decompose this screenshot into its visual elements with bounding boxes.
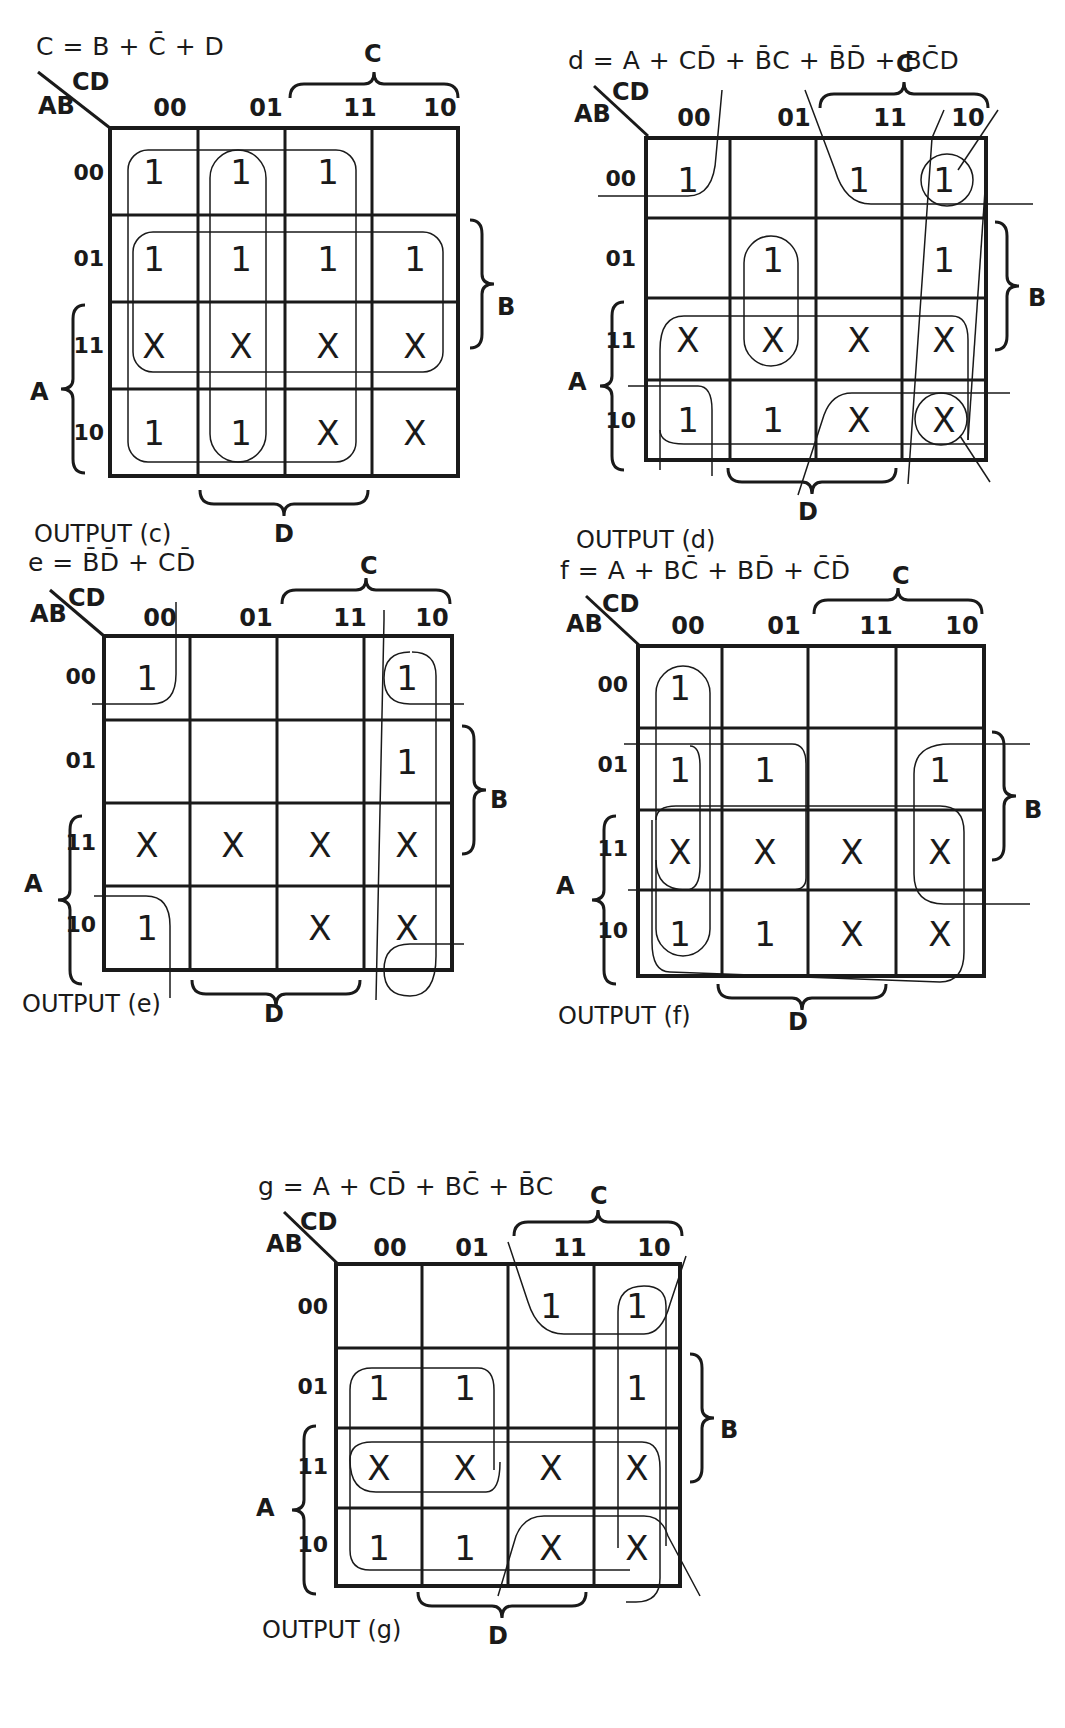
col-group-c-label: C xyxy=(892,562,910,590)
cell xyxy=(280,718,360,806)
cell: X xyxy=(900,890,980,978)
cell: 1 xyxy=(367,634,447,722)
cell: X xyxy=(904,296,984,384)
kmap-g: g = A + CD̄ + BC̄ + B̄C CD AB C B A D xyxy=(240,1160,760,1720)
cell: 1 xyxy=(114,128,194,216)
row-group-a-label: A xyxy=(24,870,43,898)
row-code: 00 xyxy=(596,166,636,191)
cell xyxy=(648,216,728,304)
cell: X xyxy=(812,808,892,896)
row-var-label: AB xyxy=(38,92,75,120)
kmap-e: e = B̄D̄ + CD̄ CD AB C B A D 00 01 11 10… xyxy=(0,590,520,1150)
row-code: 11 xyxy=(596,328,636,353)
col-group-d-label: D xyxy=(488,1622,508,1650)
cell: 1 xyxy=(733,376,813,464)
col-var-label: CD xyxy=(602,590,640,618)
cell: 1 xyxy=(648,136,728,224)
row-group-b-label: B xyxy=(720,1416,738,1444)
cell: 1 xyxy=(201,389,281,477)
row-code: 11 xyxy=(288,1454,328,1479)
cell xyxy=(193,718,273,806)
row-code: 00 xyxy=(288,1294,328,1319)
cell xyxy=(193,884,273,972)
col-group-c-label: C xyxy=(360,552,378,580)
col-code: 11 xyxy=(846,612,906,640)
cell: 1 xyxy=(648,376,728,464)
col-group-c-label: C xyxy=(896,50,914,78)
cell: X xyxy=(648,296,728,384)
col-code: 10 xyxy=(624,1234,684,1262)
row-group-b-label: B xyxy=(1024,796,1042,824)
cell: X xyxy=(597,1504,677,1592)
cell: 1 xyxy=(107,634,187,722)
cell: X xyxy=(597,1424,677,1512)
row-group-a-label: A xyxy=(256,1494,275,1522)
row-var-label: AB xyxy=(574,100,611,128)
cell: 1 xyxy=(725,726,805,814)
col-code: 10 xyxy=(932,612,992,640)
cell: X xyxy=(367,884,447,972)
row-group-b-label: B xyxy=(497,293,515,321)
cell xyxy=(733,136,813,224)
cell: 1 xyxy=(425,1344,505,1432)
row-group-a-label: A xyxy=(568,368,587,396)
col-code: 00 xyxy=(664,104,724,132)
col-var-label: CD xyxy=(300,1208,338,1236)
cell: 1 xyxy=(288,215,368,303)
row-code: 01 xyxy=(288,1374,328,1399)
cell xyxy=(425,1262,505,1350)
col-var-label: CD xyxy=(72,68,110,96)
col-code: 01 xyxy=(236,94,296,122)
cell: X xyxy=(375,302,455,390)
cell: X xyxy=(725,808,805,896)
cell: X xyxy=(280,884,360,972)
cell: X xyxy=(511,1424,591,1512)
cell: X xyxy=(819,376,899,464)
cell xyxy=(812,726,892,814)
row-code: 10 xyxy=(288,1532,328,1557)
row-code: 10 xyxy=(588,918,628,943)
cell: 1 xyxy=(640,644,720,732)
col-code: 00 xyxy=(140,94,200,122)
cell: 1 xyxy=(114,215,194,303)
cell: X xyxy=(288,389,368,477)
cell xyxy=(725,644,805,732)
cell: X xyxy=(339,1424,419,1512)
cell xyxy=(375,128,455,216)
cell: X xyxy=(733,296,813,384)
cell: X xyxy=(288,302,368,390)
cell: X xyxy=(511,1504,591,1592)
cell: X xyxy=(193,801,273,889)
cell: X xyxy=(900,808,980,896)
cell: 1 xyxy=(201,215,281,303)
kmap-f: f = A + BC̄ + BD̄ + C̄D̄ CD AB C B A D 0… xyxy=(540,590,1060,1150)
row-var-label: AB xyxy=(566,610,603,638)
cell: X xyxy=(904,376,984,464)
col-group-d-label: D xyxy=(264,1000,284,1028)
cell: X xyxy=(640,808,720,896)
cell: X xyxy=(107,801,187,889)
row-group-a-label: A xyxy=(30,378,49,406)
cell: 1 xyxy=(367,718,447,806)
cell: X xyxy=(819,296,899,384)
cell: 1 xyxy=(107,884,187,972)
cell: X xyxy=(280,801,360,889)
col-group-d-label: D xyxy=(798,498,818,526)
row-code: 10 xyxy=(56,912,96,937)
cell: 1 xyxy=(904,136,984,224)
cell xyxy=(900,644,980,732)
row-code: 00 xyxy=(64,160,104,185)
equation-e: e = B̄D̄ + CD̄ xyxy=(28,548,196,577)
output-label-c: OUTPUT (c) xyxy=(34,520,171,548)
cell: 1 xyxy=(597,1344,677,1432)
row-code: 00 xyxy=(56,664,96,689)
equation-f: f = A + BC̄ + BD̄ + C̄D̄ xyxy=(560,556,851,585)
row-code: 01 xyxy=(588,752,628,777)
col-code: 11 xyxy=(330,94,390,122)
kmap-d: d = A + CD̄ + B̄C + B̄D̄ + BC̄D xyxy=(540,0,1060,560)
col-code: 00 xyxy=(130,604,190,632)
col-var-label: CD xyxy=(612,78,650,106)
cell: 1 xyxy=(733,216,813,304)
col-group-d-label: D xyxy=(788,1008,808,1036)
row-code: 00 xyxy=(588,672,628,697)
